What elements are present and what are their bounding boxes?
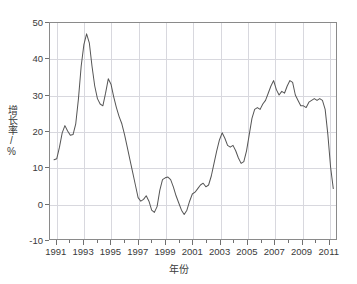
- x-tick-mark-minor: [97, 240, 98, 243]
- x-tick-mark-major: [329, 240, 330, 245]
- y-tick-mark: [45, 167, 49, 168]
- faint-caption: [0, 0, 357, 14]
- y-tick-mark: [45, 204, 49, 205]
- x-axis-title: 年份: [0, 261, 357, 276]
- x-tick-label: 1997: [127, 246, 148, 257]
- x-tick-mark-major: [247, 240, 248, 245]
- x-tick-mark-major: [165, 240, 166, 245]
- x-tick-label: 1999: [154, 246, 175, 257]
- x-tick-mark-major: [83, 240, 84, 245]
- x-tick-label: 2003: [209, 246, 230, 257]
- y-tick-label: 20: [17, 126, 43, 137]
- chart-figure: 增长率/% 50403020100-10 1991199319951997199…: [0, 0, 357, 284]
- x-tick-label: 2001: [182, 246, 203, 257]
- x-tick-mark-minor: [233, 240, 234, 243]
- x-tick-mark-minor: [69, 240, 70, 243]
- y-tick-label: 50: [17, 17, 43, 28]
- x-tick-mark-major: [274, 240, 275, 245]
- y-tick-mark: [45, 240, 49, 241]
- y-tick-labels: 50403020100-10: [11, 22, 43, 240]
- data-line-svg: [50, 23, 336, 239]
- x-tick-mark-major: [56, 240, 57, 245]
- x-tick-mark-minor: [261, 240, 262, 243]
- y-tick-mark: [45, 22, 49, 23]
- x-tick-label: 2009: [291, 246, 312, 257]
- x-tick-mark-major: [220, 240, 221, 245]
- plot-area: [49, 22, 337, 240]
- x-tick-mark-minor: [206, 240, 207, 243]
- y-tick-label: 30: [17, 89, 43, 100]
- y-tick-mark: [45, 95, 49, 96]
- x-tick-mark-major: [302, 240, 303, 245]
- series-line-growth-rate: [54, 34, 333, 215]
- x-tick-label: 2011: [319, 246, 339, 257]
- y-tick-mark: [45, 131, 49, 132]
- x-tick-label: 2007: [264, 246, 285, 257]
- x-tick-mark-minor: [288, 240, 289, 243]
- y-tick-label: 0: [17, 198, 43, 209]
- x-tick-label: 2005: [236, 246, 257, 257]
- y-tick-label: -10: [17, 235, 43, 246]
- x-tick-mark-minor: [315, 240, 316, 243]
- x-tick-label: 1993: [73, 246, 94, 257]
- x-tick-mark-major: [138, 240, 139, 245]
- y-tick-label: 10: [17, 162, 43, 173]
- x-tick-mark-minor: [124, 240, 125, 243]
- x-tick-mark-minor: [179, 240, 180, 243]
- x-tick-mark-minor: [151, 240, 152, 243]
- x-tick-mark-major: [110, 240, 111, 245]
- x-tick-mark-major: [192, 240, 193, 245]
- y-tick-label: 40: [17, 53, 43, 64]
- x-tick-label: 1995: [100, 246, 121, 257]
- x-tick-label: 1991: [45, 246, 66, 257]
- y-tick-mark: [45, 58, 49, 59]
